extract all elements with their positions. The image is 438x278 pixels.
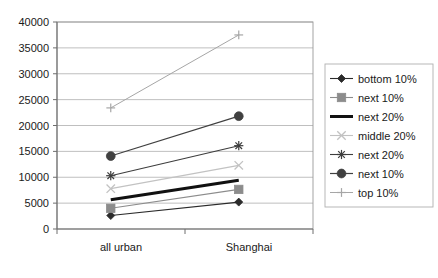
- y-tick-label: 0: [43, 223, 49, 235]
- legend-label: middle 20%: [358, 130, 416, 142]
- legend-label: next 20%: [358, 149, 404, 161]
- legend-label: bottom 10%: [358, 73, 417, 85]
- legend-label: next 10%: [358, 168, 404, 180]
- y-axis: 0500010000150002000025000300003500040000: [18, 16, 57, 235]
- legend-label: next 20%: [358, 111, 404, 123]
- data-point: [235, 185, 243, 193]
- data-point: [106, 152, 115, 161]
- legend: bottom 10%next 10%next 20%middle 20%next…: [325, 64, 433, 207]
- x-axis: all urbanShanghai: [57, 229, 313, 253]
- data-point: [234, 112, 243, 121]
- data-point: [107, 204, 115, 212]
- legend-item-1[interactable]: next 10%: [330, 92, 404, 104]
- y-tick-label: 30000: [18, 68, 49, 80]
- data-point: [106, 171, 115, 180]
- y-tick-label: 25000: [18, 94, 49, 106]
- x-tick-label: Shanghai: [226, 241, 273, 253]
- y-tick-label: 15000: [18, 145, 49, 157]
- data-point: [234, 141, 243, 150]
- legend-marker: [337, 169, 346, 178]
- y-tick-label: 40000: [18, 16, 49, 28]
- chart-canvas: 0500010000150002000025000300003500040000…: [0, 0, 438, 278]
- legend-marker: [337, 150, 346, 159]
- y-tick-label: 35000: [18, 42, 49, 54]
- legend-item-5[interactable]: next 10%: [330, 168, 404, 180]
- legend-label: top 10%: [358, 187, 399, 199]
- y-tick-label: 5000: [25, 197, 49, 209]
- legend-label: next 10%: [358, 92, 404, 104]
- y-tick-label: 10000: [18, 171, 49, 183]
- legend-marker: [337, 93, 345, 101]
- legend-item-4[interactable]: next 20%: [330, 149, 404, 161]
- x-tick-label: all urban: [100, 241, 142, 253]
- line-chart: 0500010000150002000025000300003500040000…: [0, 0, 438, 278]
- y-tick-label: 20000: [18, 120, 49, 132]
